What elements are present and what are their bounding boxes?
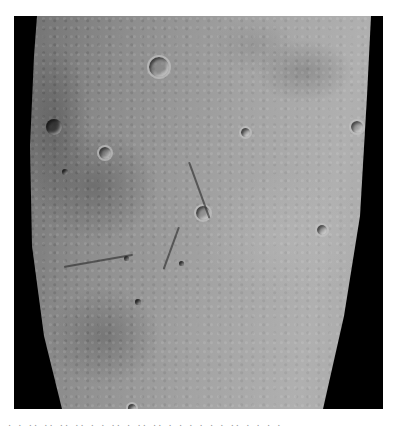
image-caption: · · ·· ·· ·· ·· · · ·· · ·· ·· · · · · ·… [8,419,388,426]
crater [349,119,365,135]
crater [315,223,329,237]
crater [194,204,212,222]
lunar-surface [14,16,383,409]
crater [97,145,113,161]
crater [126,402,138,409]
crater [239,126,252,139]
lunar-photo-frame [14,16,383,409]
crater [147,55,171,79]
crater [135,299,141,305]
crater [46,119,62,135]
crater [179,261,184,266]
crater [62,169,68,175]
